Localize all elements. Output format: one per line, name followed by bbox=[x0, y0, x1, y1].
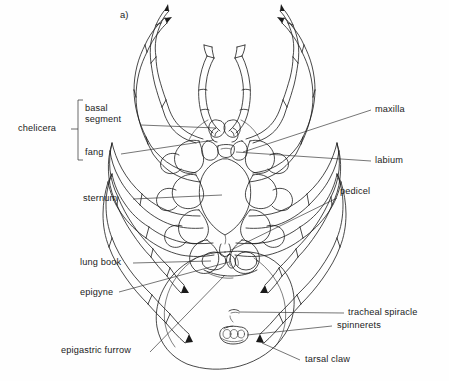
label-spinnerets: spinnerets bbox=[337, 320, 381, 331]
label-labium: labium bbox=[375, 155, 403, 166]
leader-tracheal-spiracle bbox=[239, 312, 344, 313]
label-tarsal-claw: tarsal claw bbox=[305, 354, 350, 365]
label-epigyne: epigyne bbox=[80, 287, 113, 298]
label-chelicera: chelicera bbox=[18, 123, 56, 134]
abdomen-outline bbox=[156, 251, 294, 369]
spider-line-drawing bbox=[0, 0, 449, 381]
label-sternum: sternum bbox=[83, 193, 117, 204]
leader-spinnerets bbox=[247, 326, 332, 335]
label-epigastric-furrow: epigastric furrow bbox=[61, 345, 131, 356]
label-maxilla: maxilla bbox=[375, 104, 405, 115]
leader-pedicel bbox=[231, 198, 337, 250]
leg-left-3 bbox=[108, 143, 203, 293]
leader-fang bbox=[121, 140, 214, 154]
leg-left-2 bbox=[134, 17, 200, 182]
leader-maxilla bbox=[243, 110, 371, 152]
label-basal-segment-line2: segment bbox=[85, 114, 121, 125]
leg-right-2 bbox=[249, 17, 315, 182]
sternum bbox=[199, 159, 250, 244]
spider-anatomy-figure: a) chelicera basal segment fang sternum … bbox=[0, 0, 449, 381]
chelicera-bracket bbox=[71, 100, 83, 160]
leg-right-3 bbox=[246, 143, 341, 293]
label-basal-segment-line1: basal bbox=[85, 103, 108, 114]
leader-sternum bbox=[133, 195, 222, 199]
label-lung-book: lung book bbox=[80, 257, 121, 268]
leader-lung-book bbox=[133, 261, 211, 263]
label-tracheal-spiracle: tracheal spiracle bbox=[348, 307, 417, 318]
maxilla-left bbox=[202, 141, 218, 160]
label-pedicel: pedicel bbox=[340, 186, 370, 197]
leg-right-4 bbox=[235, 174, 346, 343]
tracheal-spiracle bbox=[229, 310, 239, 314]
leader-labium bbox=[236, 152, 371, 161]
maxilla-right bbox=[231, 141, 247, 160]
leader-tarsal-claw bbox=[262, 343, 300, 360]
spinnerets bbox=[220, 316, 248, 344]
label-fang: fang bbox=[85, 147, 103, 158]
figure-tag: a) bbox=[120, 9, 128, 20]
